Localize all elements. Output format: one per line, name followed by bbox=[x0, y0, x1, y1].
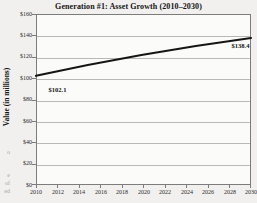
asset-growth-chart: Generation #1: Asset Growth (2010–2030) … bbox=[0, 0, 257, 203]
margin-text-fragment: e bbox=[0, 172, 10, 179]
start-value-label: $102.1 bbox=[42, 86, 73, 94]
margin-text-fragment: o bbox=[0, 149, 10, 156]
asset-growth-line bbox=[0, 0, 257, 203]
margin-text-fragment: ed bbox=[0, 188, 10, 195]
end-value-label: $138.4 bbox=[225, 42, 256, 50]
margin-text-fragment: of bbox=[0, 180, 10, 187]
